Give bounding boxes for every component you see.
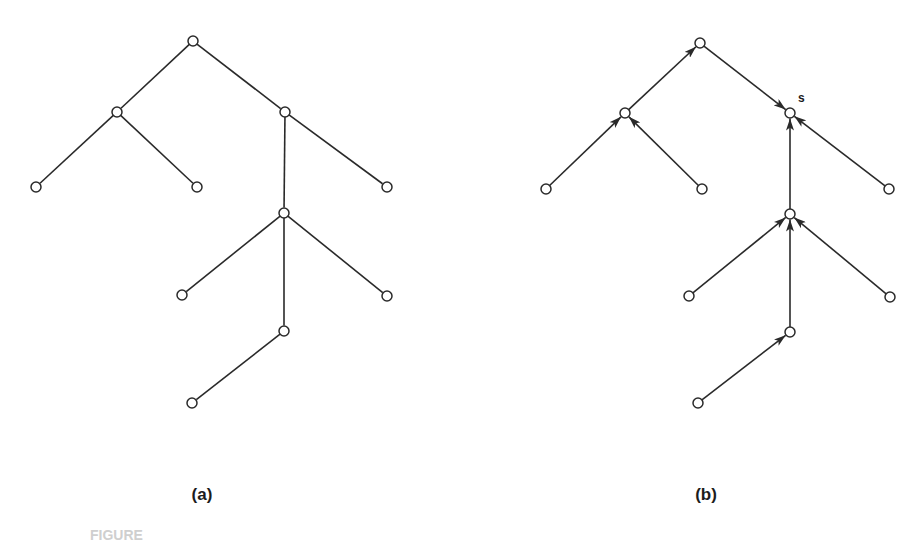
tree-node-LR [697, 184, 707, 194]
edge-M-MR [288, 216, 383, 292]
directed-edge-RR-S [794, 116, 885, 186]
tree-node-RR [382, 182, 392, 192]
edge-R-RR [289, 115, 383, 184]
tree-node-L [112, 107, 122, 117]
figure-caption-fragment: FIGURE [90, 527, 143, 543]
directed-edge-ML-M [693, 217, 786, 292]
edge-r-L [121, 44, 189, 108]
tree-node-R [280, 107, 290, 117]
tree-node-ML [177, 290, 187, 300]
tree-node-RR [884, 184, 894, 194]
tree-node-DL [187, 398, 197, 408]
tree-node-MR [885, 292, 895, 302]
tree-node-M [279, 208, 289, 218]
tree-node-r [695, 38, 705, 48]
directed-edge-MR-M [794, 218, 886, 294]
edge-D-DL [196, 334, 280, 400]
root-node-s-label: s [798, 91, 805, 105]
tree-node-MR [382, 291, 392, 301]
tree-node-S [785, 108, 795, 118]
panel-label-b: (b) [695, 485, 717, 505]
tree-node-LR [192, 182, 202, 192]
directed-edge-LR-L [629, 117, 699, 186]
directed-edge-LL-L [550, 117, 621, 186]
tree-node-DL [693, 398, 703, 408]
tree-node-LL [541, 184, 551, 194]
tree-node-ML [684, 291, 694, 301]
tree-node-D [785, 327, 795, 337]
tree-node-LL [31, 182, 41, 192]
edge-r-R [197, 44, 281, 109]
tree-node-D [279, 326, 289, 336]
tree-node-L [620, 108, 630, 118]
directed-edge-L-r [629, 47, 696, 110]
edge-M-ML [186, 216, 280, 291]
directed-edge-r-S [704, 46, 786, 110]
tree-node-M [785, 209, 795, 219]
tree-node-r [188, 36, 198, 46]
edge-L-LL [40, 115, 113, 183]
panel-label-a: (a) [192, 485, 213, 505]
edge-L-LR [121, 115, 193, 183]
undirected-tree-panel-a [31, 36, 392, 408]
edge-R-M [284, 117, 285, 208]
directed-tree-panel-b [541, 38, 895, 408]
directed-edge-DL-D [702, 335, 786, 400]
